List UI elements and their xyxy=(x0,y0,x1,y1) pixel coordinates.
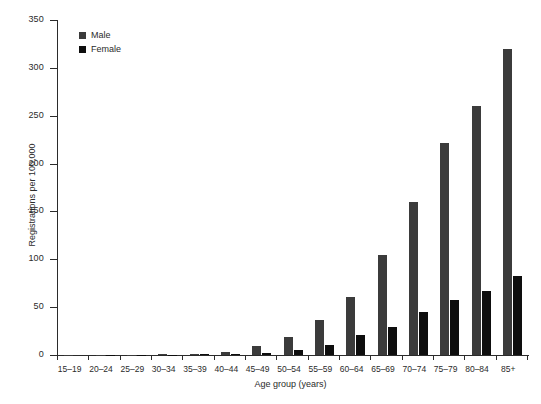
x-axis-tick-label: 50–54 xyxy=(273,364,304,374)
x-axis-tick-label: 65–69 xyxy=(367,364,398,374)
x-axis-line xyxy=(57,355,529,356)
x-axis-title-text: Age group (years) xyxy=(254,379,326,389)
y-axis-tick xyxy=(50,355,57,356)
x-axis-tick xyxy=(182,355,183,360)
female-swatch-icon xyxy=(79,46,86,53)
x-axis-tick xyxy=(527,355,528,360)
bar-male-75-79 xyxy=(440,143,449,355)
y-axis-title-holder: Registrations per 100,000 xyxy=(8,20,28,355)
y-axis-tick xyxy=(50,68,57,69)
plot-area xyxy=(57,20,527,355)
x-axis-tick xyxy=(308,355,309,360)
x-axis-tick xyxy=(464,355,465,360)
chart-legend: MaleFemale xyxy=(79,29,121,57)
x-axis-tick-label: 20–24 xyxy=(85,364,116,374)
legend-label: Male xyxy=(91,29,111,41)
x-axis-tick xyxy=(245,355,246,360)
y-axis-tick xyxy=(50,211,57,212)
bar-female-40-44 xyxy=(231,354,240,355)
bar-male-80-84 xyxy=(472,106,481,355)
x-axis-tick-label: 70–74 xyxy=(399,364,430,374)
bar-male-50-54 xyxy=(284,337,293,355)
legend-item-male: Male xyxy=(79,29,121,41)
bar-male-55-59 xyxy=(315,320,324,355)
bar-female-45-49 xyxy=(262,353,271,355)
bar-male-70-74 xyxy=(409,202,418,355)
bar-male-60-64 xyxy=(346,297,355,355)
bar-female-50-54 xyxy=(294,350,303,355)
y-axis-tick xyxy=(50,116,57,117)
bar-female-75-79 xyxy=(450,300,459,355)
bar-male-65-69 xyxy=(378,255,387,356)
x-axis-tick xyxy=(57,355,58,360)
bar-female-60-64 xyxy=(356,335,365,355)
legend-item-female: Female xyxy=(79,43,121,55)
bar-female-55-59 xyxy=(325,345,334,355)
x-axis-tick xyxy=(402,355,403,360)
x-axis-tick-label: 35–39 xyxy=(179,364,210,374)
bar-female-70-74 xyxy=(419,312,428,355)
x-axis-title: Age group (years) xyxy=(0,379,541,389)
bar-male-85+ xyxy=(503,49,512,355)
male-swatch-icon xyxy=(79,32,86,39)
x-axis-tick xyxy=(370,355,371,360)
y-axis-tick xyxy=(50,259,57,260)
bar-female-65-69 xyxy=(388,327,397,355)
x-axis-tick xyxy=(88,355,89,360)
x-axis-tick xyxy=(339,355,340,360)
bar-male-30-34 xyxy=(158,354,167,355)
x-axis-tick-label: 45–49 xyxy=(242,364,273,374)
x-axis-tick-label: 25–29 xyxy=(117,364,148,374)
x-axis-tick xyxy=(120,355,121,360)
x-axis-tick-label: 85+ xyxy=(493,364,524,374)
x-axis-tick-label: 80–84 xyxy=(461,364,492,374)
bar-female-35-39 xyxy=(200,354,209,355)
y-axis-title: Registrations per 100,000 xyxy=(27,85,37,305)
legend-label: Female xyxy=(91,43,121,55)
x-axis-tick xyxy=(214,355,215,360)
x-axis-tick-label: 60–64 xyxy=(336,364,367,374)
x-axis-tick xyxy=(496,355,497,360)
x-axis-tick xyxy=(276,355,277,360)
x-axis-tick-label: 15–19 xyxy=(54,364,85,374)
x-axis-tick-label: 30–34 xyxy=(148,364,179,374)
x-axis-tick xyxy=(151,355,152,360)
x-axis-tick-label: 40–44 xyxy=(211,364,242,374)
bar-male-45-49 xyxy=(252,346,261,355)
y-axis-tick xyxy=(50,20,57,21)
y-axis-tick xyxy=(50,307,57,308)
y-axis-tick xyxy=(50,164,57,165)
x-axis-tick-label: 55–59 xyxy=(305,364,336,374)
bar-female-80-84 xyxy=(482,291,491,355)
x-axis-tick xyxy=(433,355,434,360)
bar-male-40-44 xyxy=(221,352,230,355)
bar-chart: 050100150200250300350 Registrations per … xyxy=(0,0,541,404)
bar-female-85+ xyxy=(513,276,522,355)
bar-male-35-39 xyxy=(190,354,199,355)
x-axis-tick-label: 75–79 xyxy=(430,364,461,374)
